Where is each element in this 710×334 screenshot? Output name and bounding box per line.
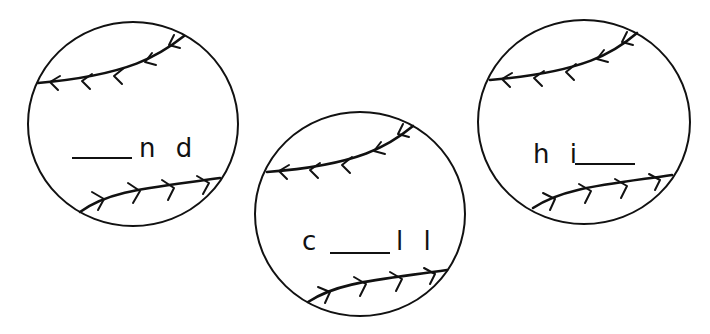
- fill-in-blank-worksheet: n d c l l: [0, 0, 710, 334]
- word-prefix: c: [302, 226, 322, 256]
- baseball-3: h i: [478, 20, 690, 224]
- word-suffix: n d: [139, 133, 198, 163]
- bottom-seam-icon: [80, 178, 220, 212]
- baseball-outline-icon: [255, 112, 465, 316]
- bottom-seam-icon: [308, 270, 447, 302]
- word-suffix: l l: [396, 226, 437, 256]
- baseball-1: n d: [28, 22, 238, 226]
- baseball-outline-icon: [28, 22, 238, 226]
- baseball-2: c l l: [255, 112, 465, 316]
- baseball-outline-icon: [478, 20, 690, 224]
